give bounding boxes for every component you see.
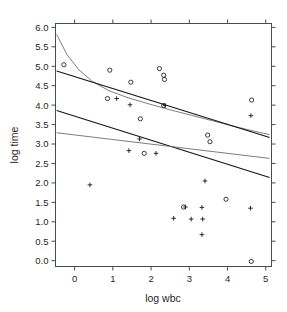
y-tick-label: 5.5 — [35, 41, 48, 52]
y-tick-label: 1.5 — [35, 197, 48, 208]
data-point-circle — [208, 140, 212, 144]
x-tick-label: 2 — [148, 273, 153, 284]
y-tick-label: 0.5 — [35, 236, 48, 247]
x-axis-tick-labels: 012345 — [72, 273, 268, 284]
x-tick-label: 4 — [225, 273, 230, 284]
data-point-plus — [189, 217, 194, 222]
data-point-circle — [162, 77, 166, 81]
y-tick-label: 3.5 — [35, 119, 48, 130]
scatter-plot-figure: 0.00.51.01.52.02.53.03.54.04.55.05.56.0 … — [0, 0, 287, 312]
x-axis-label: log wbc — [145, 292, 181, 304]
data-point-circle — [138, 117, 142, 121]
data-point-plus — [128, 102, 133, 107]
fit-line-lower-flat-line — [57, 133, 270, 159]
x-tick-label: 0 — [72, 273, 77, 284]
data-point-plus — [200, 205, 205, 210]
data-point-plus — [200, 232, 205, 237]
data-point-plus — [127, 148, 132, 153]
data-point-circle — [206, 133, 210, 137]
plot-frame — [56, 24, 272, 267]
data-point-circle — [250, 98, 254, 102]
y-tick-label: 3.0 — [35, 138, 48, 149]
data-point-plus — [88, 183, 93, 188]
data-point-circle — [108, 68, 112, 72]
data-point-circle — [162, 73, 166, 77]
data-point-plus — [183, 205, 188, 210]
data-point-plus — [249, 113, 254, 118]
x-axis-ticks — [75, 20, 266, 271]
data-point-plus — [154, 151, 159, 156]
data-point-circle — [157, 67, 161, 71]
y-tick-label: 5.0 — [35, 61, 48, 72]
data-point-circle — [142, 151, 146, 155]
data-point-plus — [203, 179, 208, 184]
plot-canvas: 0.00.51.01.52.02.53.03.54.04.55.05.56.0 … — [0, 0, 287, 312]
data-point-plus — [248, 206, 253, 211]
data-point-plus — [114, 96, 119, 101]
y-tick-label: 4.5 — [35, 80, 48, 91]
y-tick-label: 6.0 — [35, 22, 48, 33]
x-tick-label: 1 — [110, 273, 115, 284]
y-tick-label: 0.0 — [35, 255, 48, 266]
y-axis-label: log time — [8, 126, 20, 163]
y-tick-label: 1.0 — [35, 216, 48, 227]
x-tick-label: 3 — [187, 273, 192, 284]
data-point-circle — [62, 63, 66, 67]
data-point-circle — [105, 96, 109, 100]
data-point-plus — [200, 217, 205, 222]
fit-line-upper-curve — [57, 34, 270, 134]
data-point-circle — [224, 197, 228, 201]
data-point-plus — [171, 216, 176, 221]
y-tick-label: 2.5 — [35, 158, 48, 169]
y-tick-label: 2.0 — [35, 177, 48, 188]
y-axis-tick-labels: 0.00.51.01.52.02.53.03.54.04.55.05.56.0 — [35, 22, 48, 266]
data-point-circle — [129, 80, 133, 84]
fit-line-lower-regression-line — [57, 111, 270, 178]
data-point-circle — [249, 259, 253, 263]
y-tick-label: 4.0 — [35, 100, 48, 111]
x-tick-label: 5 — [263, 273, 268, 284]
